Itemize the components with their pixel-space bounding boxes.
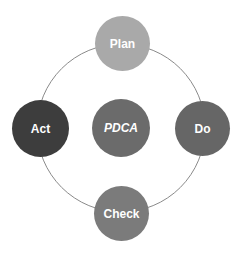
do-label: Do bbox=[195, 123, 211, 135]
act-node: Act bbox=[12, 100, 69, 157]
check-node: Check bbox=[94, 186, 149, 241]
act-label: Act bbox=[31, 123, 50, 135]
plan-label: Plan bbox=[110, 38, 135, 50]
do-node: Do bbox=[175, 101, 230, 156]
pdca-center-node: PDCA bbox=[92, 99, 150, 157]
check-label: Check bbox=[103, 208, 139, 220]
pdca-label: PDCA bbox=[104, 122, 138, 134]
plan-node: Plan bbox=[95, 16, 150, 71]
